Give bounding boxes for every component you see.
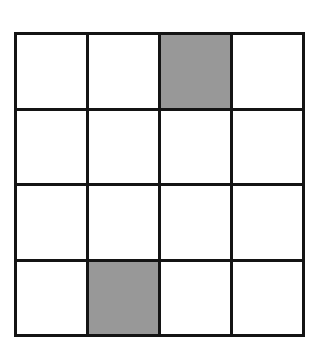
grid-cell-r3c2[interactable] — [89, 186, 158, 259]
grid-cell-r1c3[interactable] — [161, 35, 230, 108]
grid-cell-r2c4[interactable] — [233, 111, 302, 184]
grid-cell-r1c1[interactable] — [17, 35, 86, 108]
grid-cell-r3c4[interactable] — [233, 186, 302, 259]
grid-cell-r3c1[interactable] — [17, 186, 86, 259]
grid-cell-r2c3[interactable] — [161, 111, 230, 184]
grid-cell-r3c3[interactable] — [161, 186, 230, 259]
figure-canvas — [0, 0, 327, 354]
grid-cell-r1c4[interactable] — [233, 35, 302, 108]
grid-cell-r4c1[interactable] — [17, 262, 86, 335]
grid-cell-r1c2[interactable] — [89, 35, 158, 108]
grid-cell-r4c3[interactable] — [161, 262, 230, 335]
grid-4x4 — [14, 32, 305, 337]
grid-cell-r4c4[interactable] — [233, 262, 302, 335]
grid-cell-r4c2[interactable] — [89, 262, 158, 335]
grid-cell-r2c1[interactable] — [17, 111, 86, 184]
grid-cell-r2c2[interactable] — [89, 111, 158, 184]
